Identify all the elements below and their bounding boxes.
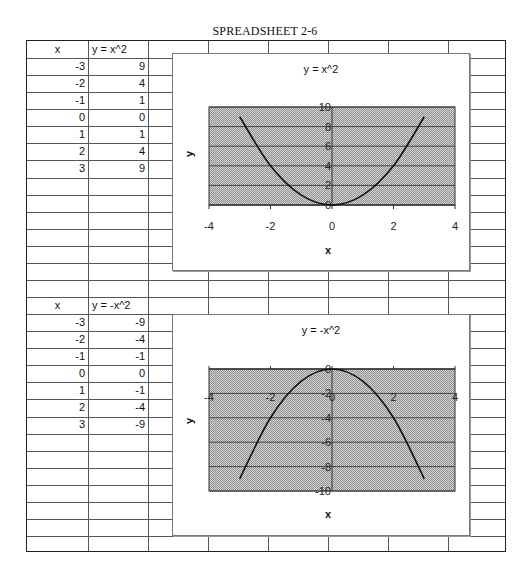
row-line (27, 280, 505, 281)
table1-cell-y[interactable]: 4 (88, 143, 148, 160)
svg-text:-10: -10 (315, 485, 331, 497)
page-title: SPREADSHEET 2-6 (0, 24, 530, 39)
table1-cell-x[interactable]: 0 (27, 109, 88, 126)
table2-cell-y[interactable]: -1 (88, 348, 148, 365)
table1-cell-y[interactable]: 1 (88, 126, 148, 143)
table2-cell-y[interactable]: -9 (88, 314, 148, 331)
svg-text:-4: -4 (321, 412, 331, 424)
table2-cell-y[interactable]: -4 (88, 331, 148, 348)
table2-header-y[interactable]: y = -x^2 (88, 297, 148, 314)
svg-text:4: 4 (452, 391, 458, 403)
column-line (148, 41, 149, 551)
svg-text:-8: -8 (321, 461, 331, 473)
svg-text:-2: -2 (266, 391, 276, 403)
svg-text:-4: -4 (204, 391, 214, 403)
table2-cell-y[interactable]: -9 (88, 416, 148, 433)
table1-cell-y[interactable]: 1 (88, 92, 148, 109)
table2-cell-x[interactable]: 3 (27, 416, 88, 433)
svg-text:-2: -2 (321, 387, 331, 399)
svg-text:2: 2 (390, 220, 396, 232)
table1-cell-x[interactable]: 1 (27, 126, 88, 143)
table1-cell-x[interactable]: 2 (27, 143, 88, 160)
chart-y-equals-neg-x-squared[interactable]: y = -x^2 -4-20240-2-4-6-8-10 x y (172, 314, 470, 536)
table1-header-y[interactable]: y = x^2 (88, 41, 148, 58)
chart-y-equals-x-squared[interactable]: y = x^2 -4-20240246810 x y (172, 53, 470, 271)
table1-cell-x[interactable]: 3 (27, 160, 88, 177)
svg-text:-4: -4 (204, 220, 214, 232)
chart1-ylabel: y (183, 151, 195, 157)
chart2-ylabel: y (183, 418, 195, 424)
table2-cell-x[interactable]: 1 (27, 382, 88, 399)
table1-cell-y[interactable]: 0 (88, 109, 148, 126)
table1-cell-x[interactable]: -2 (27, 75, 88, 92)
svg-text:8: 8 (325, 121, 331, 133)
chart2-xlabel: x (325, 508, 331, 520)
svg-text:10: 10 (319, 101, 331, 113)
table1-cell-y[interactable]: 9 (88, 58, 148, 75)
chart1-xlabel: x (325, 244, 331, 256)
table1-cell-x[interactable]: -3 (27, 58, 88, 75)
svg-text:4: 4 (325, 160, 331, 172)
table2-cell-y[interactable]: -1 (88, 382, 148, 399)
svg-text:0: 0 (329, 220, 335, 232)
table2-cell-x[interactable]: 0 (27, 365, 88, 382)
table2-cell-y[interactable]: 0 (88, 365, 148, 382)
svg-text:-2: -2 (266, 220, 276, 232)
table2-cell-x[interactable]: -1 (27, 348, 88, 365)
table2-cell-x[interactable]: -3 (27, 314, 88, 331)
table2-header-x[interactable]: x (27, 297, 88, 314)
table1-cell-y[interactable]: 9 (88, 160, 148, 177)
table2-cell-x[interactable]: 2 (27, 399, 88, 416)
svg-text:6: 6 (325, 140, 331, 152)
table1-cell-y[interactable]: 4 (88, 75, 148, 92)
svg-text:4: 4 (452, 220, 458, 232)
svg-text:-6: -6 (321, 436, 331, 448)
table1-header-x[interactable]: x (27, 41, 88, 58)
svg-text:2: 2 (390, 391, 396, 403)
table1-cell-x[interactable]: -1 (27, 92, 88, 109)
svg-text:2: 2 (325, 179, 331, 191)
table2-cell-x[interactable]: -2 (27, 331, 88, 348)
chart1-plot: -4-20240246810 (173, 54, 471, 272)
table2-cell-y[interactable]: -4 (88, 399, 148, 416)
chart2-plot: -4-20240-2-4-6-8-10 (173, 315, 471, 537)
